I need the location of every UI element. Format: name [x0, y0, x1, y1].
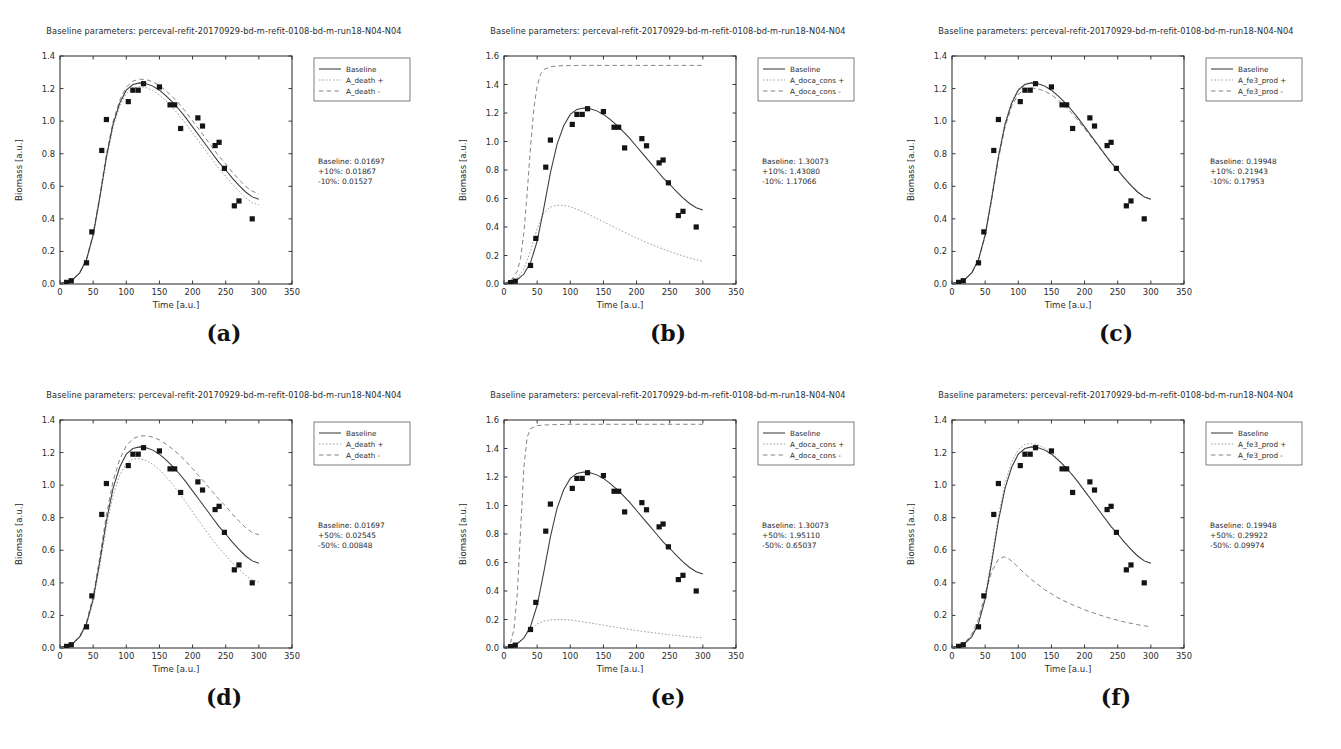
legend-label: Baseline	[346, 429, 377, 438]
svg-text:200: 200	[1077, 287, 1093, 297]
svg-text:150: 150	[151, 287, 167, 297]
svg-text:1.2: 1.2	[934, 84, 947, 94]
subfigure-label-e: (e)	[452, 684, 884, 710]
svg-text:0.2: 0.2	[486, 251, 499, 261]
svg-text:0: 0	[501, 287, 506, 297]
panel-e: Baseline parameters: perceval-refit-2017…	[452, 390, 884, 720]
svg-text:0.0: 0.0	[486, 643, 499, 653]
legend-label: Baseline	[1238, 65, 1269, 74]
svg-text:Biomass [a.u.]: Biomass [a.u.]	[906, 503, 916, 565]
annotation-line: +10%: 1.43080	[762, 167, 820, 176]
svg-text:200: 200	[185, 287, 201, 297]
legend-label: A_death -	[346, 451, 381, 460]
svg-text:250: 250	[218, 287, 234, 297]
svg-text:300: 300	[1143, 287, 1159, 297]
svg-text:0.6: 0.6	[486, 558, 499, 568]
legend-label: A_doca_cons +	[790, 440, 844, 449]
annotation-line: Baseline: 1.30073	[762, 521, 829, 530]
svg-text:Biomass [a.u.]: Biomass [a.u.]	[14, 139, 24, 201]
svg-text:0.8: 0.8	[934, 149, 947, 159]
svg-text:1.2: 1.2	[42, 84, 55, 94]
svg-text:200: 200	[629, 287, 645, 297]
plot-a: 0501001502002503003500.00.20.40.60.81.01…	[8, 40, 438, 340]
svg-text:1.0: 1.0	[934, 116, 947, 126]
svg-text:0.2: 0.2	[42, 246, 55, 256]
svg-text:300: 300	[1143, 651, 1159, 661]
legend-label: Baseline	[790, 429, 821, 438]
svg-text:350: 350	[1176, 287, 1192, 297]
svg-text:Time [a.u.]: Time [a.u.]	[596, 300, 644, 310]
svg-text:150: 150	[595, 287, 611, 297]
svg-text:1.0: 1.0	[934, 480, 947, 490]
legend-label: A_fe3_prod -	[1238, 87, 1283, 96]
svg-text:1.4: 1.4	[42, 415, 55, 425]
subfigure-label-b: (b)	[452, 320, 884, 346]
svg-text:1.4: 1.4	[486, 444, 499, 454]
legend-label: Baseline	[1238, 429, 1269, 438]
subfigure-label-d: (d)	[8, 684, 440, 710]
legend-label: A_doca_cons -	[790, 451, 841, 460]
annotation-line: +10%: 0.21943	[1210, 167, 1268, 176]
plot-f: 0501001502002503003500.00.20.40.60.81.01…	[900, 404, 1330, 704]
annotation-line: -10%: 0.17953	[1210, 177, 1265, 186]
legend-label: A_fe3_prod +	[1238, 76, 1286, 85]
svg-text:0.0: 0.0	[42, 279, 55, 289]
svg-text:0.4: 0.4	[934, 214, 947, 224]
legend-label: A_doca_cons +	[790, 76, 844, 85]
panel-d: Baseline parameters: perceval-refit-2017…	[8, 390, 440, 720]
svg-text:Time [a.u.]: Time [a.u.]	[596, 664, 644, 674]
svg-text:0.0: 0.0	[934, 279, 947, 289]
svg-text:0: 0	[57, 287, 62, 297]
subfigure-label-f: (f)	[900, 684, 1332, 710]
svg-text:0.0: 0.0	[934, 643, 947, 653]
svg-text:0.6: 0.6	[934, 181, 947, 191]
svg-text:0: 0	[501, 651, 506, 661]
svg-text:0.2: 0.2	[486, 615, 499, 625]
panel-b: Baseline parameters: perceval-refit-2017…	[452, 26, 884, 356]
legend-label: Baseline	[790, 65, 821, 74]
svg-text:0.0: 0.0	[42, 643, 55, 653]
panel-title-c: Baseline parameters: perceval-refit-2017…	[900, 26, 1332, 36]
panel-a: Baseline parameters: perceval-refit-2017…	[8, 26, 440, 356]
annotation-line: -10%: 0.01527	[318, 177, 373, 186]
svg-text:Biomass [a.u.]: Biomass [a.u.]	[458, 503, 468, 565]
svg-text:300: 300	[695, 287, 711, 297]
svg-text:0.8: 0.8	[934, 513, 947, 523]
svg-text:0.4: 0.4	[42, 578, 55, 588]
svg-text:350: 350	[284, 287, 300, 297]
svg-text:1.0: 1.0	[486, 501, 499, 511]
plot-e: 0501001502002503003500.00.20.40.60.81.01…	[452, 404, 882, 704]
svg-text:200: 200	[185, 651, 201, 661]
svg-text:300: 300	[251, 287, 267, 297]
svg-text:0.6: 0.6	[42, 545, 55, 555]
subfigure-label-a: (a)	[8, 320, 440, 346]
legend-label: A_fe3_prod +	[1238, 440, 1286, 449]
annotation-line: Baseline: 0.19948	[1210, 521, 1277, 530]
annotation-line: Baseline: 0.19948	[1210, 157, 1277, 166]
svg-text:Biomass [a.u.]: Biomass [a.u.]	[906, 139, 916, 201]
svg-text:0.8: 0.8	[42, 513, 55, 523]
svg-text:0.4: 0.4	[934, 578, 947, 588]
svg-text:1.0: 1.0	[486, 137, 499, 147]
svg-text:0.0: 0.0	[486, 279, 499, 289]
svg-text:0.8: 0.8	[486, 529, 499, 539]
svg-text:150: 150	[1043, 651, 1059, 661]
svg-text:1.4: 1.4	[934, 415, 947, 425]
panel-title-f: Baseline parameters: perceval-refit-2017…	[900, 390, 1332, 400]
svg-text:250: 250	[1110, 287, 1126, 297]
panel-title-d: Baseline parameters: perceval-refit-2017…	[8, 390, 440, 400]
svg-text:1.2: 1.2	[42, 448, 55, 458]
svg-text:0: 0	[949, 651, 954, 661]
svg-text:1.4: 1.4	[486, 80, 499, 90]
panel-title-a: Baseline parameters: perceval-refit-2017…	[8, 26, 440, 36]
svg-text:0.6: 0.6	[934, 545, 947, 555]
svg-text:200: 200	[1077, 651, 1093, 661]
svg-text:Time [a.u.]: Time [a.u.]	[152, 300, 200, 310]
panel-f: Baseline parameters: perceval-refit-2017…	[900, 390, 1332, 720]
legend-label: A_doca_cons -	[790, 87, 841, 96]
svg-text:Biomass [a.u.]: Biomass [a.u.]	[458, 139, 468, 201]
svg-text:250: 250	[218, 651, 234, 661]
svg-text:350: 350	[728, 651, 744, 661]
svg-text:150: 150	[595, 651, 611, 661]
svg-text:0.6: 0.6	[486, 194, 499, 204]
